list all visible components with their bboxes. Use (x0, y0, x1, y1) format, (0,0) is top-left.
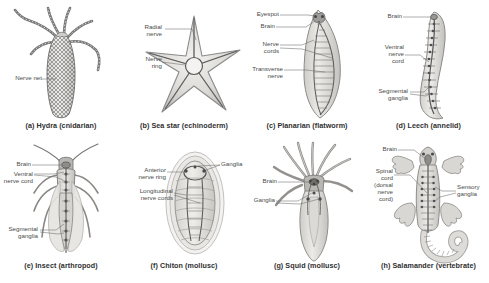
label-sensory-ganglia: Sensory ganglia (457, 184, 489, 198)
label-ganglia: Ganglia (246, 197, 275, 204)
label-eyespot: Eyespot (246, 11, 279, 18)
label-segmental-ganglia: Segmental ganglia (368, 88, 408, 102)
caption-chiton: (f) Chiton (mollusc) (122, 261, 246, 270)
label-brain: Brain (250, 178, 277, 185)
caption-sea-star: (b) Sea star (echinoderm) (122, 121, 246, 130)
label-anterior-nerve-ring: Anterior nerve ring (126, 167, 166, 181)
label-spinal-cord: Spinal cord (dorsal nerve cord) (368, 168, 393, 203)
label-brain: Brain (246, 23, 275, 30)
label-nerve-net: Nerve net (2, 75, 42, 82)
caption-squid: (g) Squid (mollusc) (246, 261, 368, 270)
label-brain: Brain (370, 146, 397, 153)
panel-sea-star: Radial nerve Nerve ring (b) Sea star (ec… (122, 0, 246, 140)
squid-illustration (246, 141, 368, 267)
label-segmental-ganglia: Segmental ganglia (0, 226, 38, 240)
panel-planarian: Eyespot Brain Nerve cords Transverse ner… (246, 0, 368, 140)
caption-planarian: (c) Planarian (flatworm) (246, 121, 368, 130)
label-ganglia: Ganglia (221, 161, 247, 168)
label-brain: Brain (374, 13, 402, 20)
hydra-illustration (0, 0, 122, 126)
label-nerve-ring: Nerve ring (126, 56, 162, 70)
panel-squid: Brain Ganglia (g) Squid (mollusc) (246, 141, 368, 283)
panel-salamander: Brain Spinal cord (dorsal nerve cord) Se… (368, 141, 489, 283)
label-nerve-cords: Nerve cords (246, 41, 279, 55)
caption-hydra: (a) Hydra (cnidarian) (0, 121, 122, 130)
caption-leech: (d) Leech (annelid) (368, 121, 489, 130)
label-ventral-nerve-cord: Ventral nerve cord (0, 171, 33, 185)
label-ventral-nerve-cord: Ventral nerve cord (370, 44, 404, 65)
label-brain: Brain (4, 161, 31, 168)
label-longitudinal-nerve-cords: Longitudinal nerve cords (122, 188, 173, 202)
planarian-illustration (246, 0, 368, 126)
salamander-illustration (368, 141, 489, 267)
caption-insect: (e) Insect (arthropod) (0, 261, 122, 270)
panel-chiton: Anterior nerve ring Longitudinal nerve c… (122, 141, 246, 283)
label-transverse-nerve: Transverse nerve (246, 66, 283, 80)
caption-salamander: (h) Salamander (vertebrate) (368, 261, 489, 270)
label-radial-nerve: Radial nerve (126, 24, 162, 38)
panel-hydra: Nerve net (a) Hydra (cnidarian) (0, 0, 122, 140)
nervous-system-figure: Nerve net (a) Hydra (cnidarian) (0, 0, 489, 283)
panel-leech: Brain Ventral nerve cord Segmental gangl… (368, 0, 489, 140)
panel-insect: Brain Ventral nerve cord Segmental gangl… (0, 141, 122, 283)
